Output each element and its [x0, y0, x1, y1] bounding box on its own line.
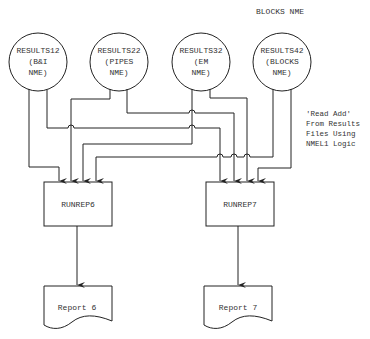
- svg-text:NMEL1 Logic: NMEL1 Logic: [306, 140, 356, 148]
- source-sublabel: NME): [191, 68, 210, 77]
- source-sublabel: (EM: [194, 57, 209, 66]
- source-sublabel: NME): [109, 68, 128, 77]
- source-sublabel: NME): [272, 68, 291, 77]
- header-label: BLOCKS NME: [256, 7, 304, 16]
- source-label: RESULTS12: [16, 46, 59, 55]
- source-results32: RESULTS32 (EM NME): [172, 33, 230, 91]
- connector-results22-runrep6: [71, 89, 110, 181]
- connector-results12-runrep6: [29, 89, 59, 181]
- connector-results32-runrep7: [210, 89, 247, 181]
- source-sublabel: NME): [28, 68, 47, 77]
- connector-results42-runrep6: [96, 89, 273, 181]
- source-sublabel: (BLOCKS: [265, 57, 299, 66]
- connector-results32-runrep6: [83, 89, 192, 181]
- source-sublabel: (B&I: [28, 57, 47, 66]
- process-label: RUNREP6: [61, 200, 95, 209]
- svg-text:'Read Add': 'Read Add': [306, 110, 351, 118]
- source-results42: RESULTS42 (BLOCKS NME): [253, 33, 311, 91]
- output-label: Report 6: [58, 303, 97, 312]
- annotation-note: 'Read Add' From Results Files Using NMEL…: [306, 110, 360, 148]
- source-results12: RESULTS12 (B&I NME): [9, 33, 67, 91]
- connectors: [29, 89, 291, 181]
- flow-diagram: BLOCKS NME RESULTS12 (B&I NME) RESULTS22…: [0, 0, 370, 339]
- source-results22: RESULTS22 (PIPES NME): [90, 33, 148, 91]
- source-sublabel: (PIPES: [105, 57, 134, 66]
- output-label: Report 7: [219, 303, 258, 312]
- process-label: RUNREP7: [223, 200, 257, 209]
- connector-results12-runrep7: [47, 90, 220, 181]
- svg-text:From Results: From Results: [306, 120, 360, 128]
- process-runrep7: RUNREP7: [206, 182, 274, 226]
- source-label: RESULTS42: [260, 46, 303, 55]
- svg-text:Files Using: Files Using: [306, 130, 356, 138]
- connector-results22-runrep7: [127, 89, 234, 181]
- output-report6: Report 6: [44, 286, 112, 328]
- output-report7: Report 7: [204, 286, 272, 328]
- connector-results42-runrep7: [258, 89, 291, 181]
- process-runrep6: RUNREP6: [44, 182, 112, 226]
- source-label: RESULTS22: [97, 46, 140, 55]
- source-label: RESULTS32: [179, 46, 222, 55]
